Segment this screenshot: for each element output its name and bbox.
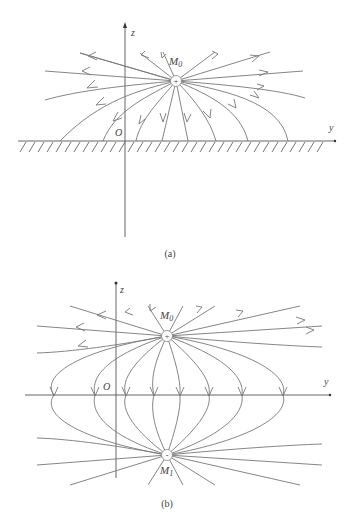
- charge-sign-a: +: [174, 77, 179, 86]
- field-lines-figure: + M0 z y O (a): [0, 0, 356, 512]
- y-axis-label-b: y: [323, 376, 329, 387]
- charge-top-label-b: M0: [159, 309, 173, 323]
- origin-label-b: O: [103, 381, 110, 392]
- origin-label-a: O: [115, 127, 122, 138]
- caption-a: (a): [164, 248, 175, 260]
- z-axis-arrow-icon: [123, 22, 127, 28]
- figure-a: + M0 z y O (a): [18, 22, 336, 260]
- figure-b: + - M0 M1 z y O (b): [25, 282, 331, 511]
- ground-hatching: [20, 142, 323, 152]
- charge-sign-top-b: +: [165, 332, 170, 341]
- field-lines-b: [37, 304, 322, 485]
- z-axis-label-b: z: [119, 284, 124, 295]
- charge-label-a: M0: [168, 55, 182, 69]
- y-axis-label-a: y: [328, 122, 334, 133]
- charge-bottom-label-b: M1: [159, 464, 173, 478]
- z-axis-label-a: z: [130, 27, 135, 38]
- charge-sign-bottom-b: -: [166, 451, 169, 460]
- caption-b: (b): [161, 498, 173, 510]
